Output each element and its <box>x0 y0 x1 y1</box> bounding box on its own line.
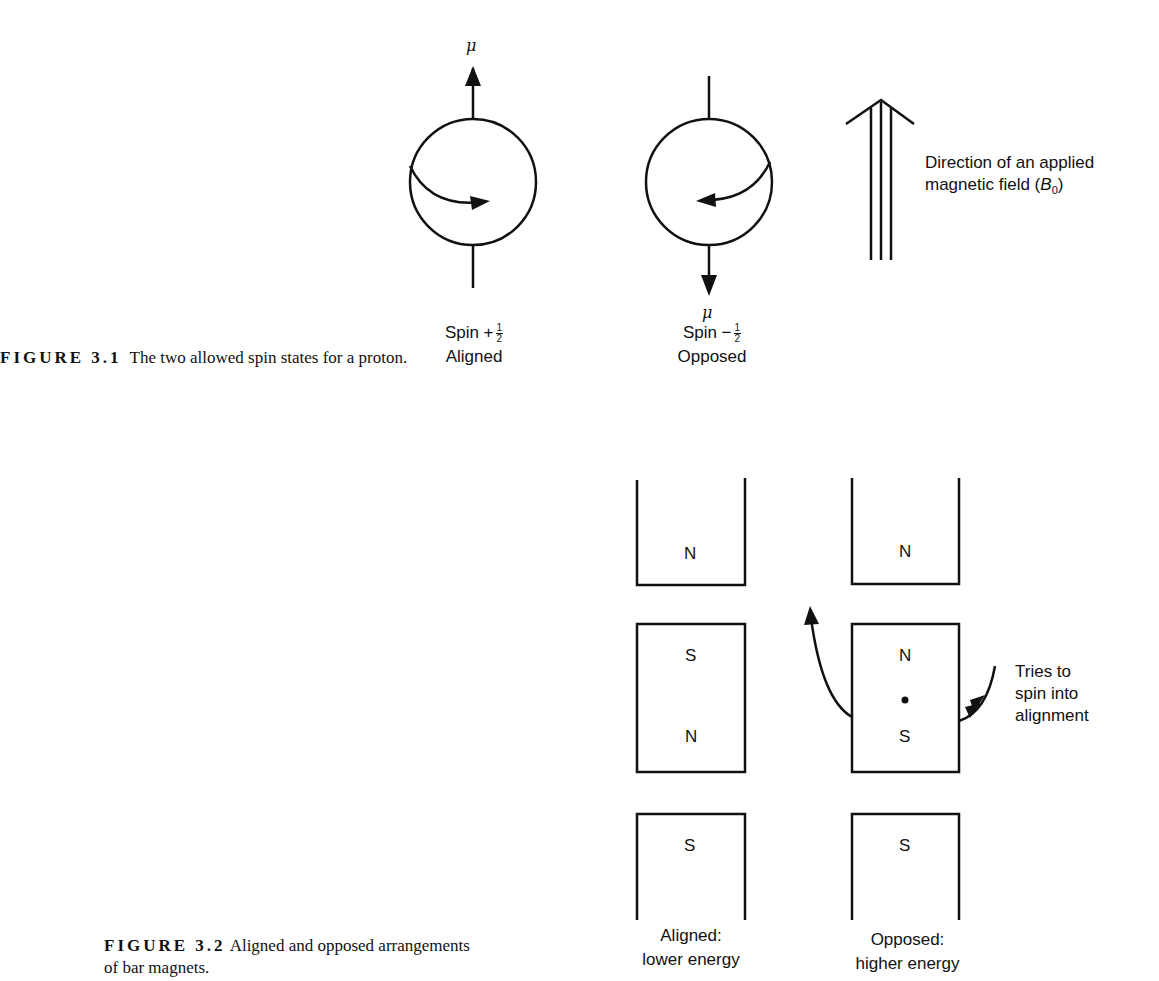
spin-value-opposed: Spin −12 <box>652 321 772 345</box>
diagram-canvas <box>0 0 1159 981</box>
figure-label: FIGURE 3.1 <box>0 348 122 367</box>
pole-aligned-top: N <box>684 544 696 564</box>
rotation-note: Tries to spin into alignment <box>1015 661 1155 727</box>
magnet-opposed-bottom <box>852 814 959 920</box>
aligned-energy-label: Aligned: lower energy <box>626 924 756 972</box>
spin-state-opposed: Spin −12 Opposed <box>652 321 772 369</box>
pole-aligned-middle-bottom: N <box>685 727 697 747</box>
proton-opposed-icon <box>646 76 772 296</box>
caption-text: The two allowed spin states for a proton… <box>130 348 408 367</box>
spin-label-aligned: Aligned <box>414 345 534 369</box>
spin-value-aligned: Spin +12 <box>414 321 534 345</box>
rotation-arrow-left-icon <box>804 606 852 717</box>
mu-label-opposed: μ <box>702 303 712 322</box>
mu-label-aligned: μ <box>466 36 476 55</box>
field-symbol: B <box>1040 175 1051 194</box>
rotation-arrow-right-icon <box>959 666 995 721</box>
spin-label-opposed: Opposed <box>652 345 772 369</box>
caption-text: Aligned and opposed arrangements <box>230 936 470 955</box>
pole-opposed-middle-top: N <box>899 646 911 666</box>
pivot-dot-icon <box>902 697 909 704</box>
pole-aligned-middle-top: S <box>685 646 696 666</box>
field-direction-label: Direction of an applied magnetic field (… <box>925 152 1155 201</box>
spin-state-aligned: Spin +12 Aligned <box>414 321 534 369</box>
magnetic-field-arrow-icon <box>846 100 914 260</box>
opposed-energy-label: Opposed: higher energy <box>840 928 975 976</box>
figure-label: FIGURE 3.2 <box>104 936 226 955</box>
pole-opposed-middle-bottom: S <box>899 727 910 747</box>
pole-opposed-top: N <box>899 542 911 562</box>
proton-aligned-icon <box>410 66 536 288</box>
fraction-half: 12 <box>734 323 742 344</box>
pole-aligned-bottom: S <box>684 836 695 856</box>
figure-3-1-caption: FIGURE 3.1 The two allowed spin states f… <box>0 347 410 369</box>
magnet-aligned-top <box>637 478 745 585</box>
figure-3-2-caption: FIGURE 3.2Aligned and opposed arrangemen… <box>104 935 624 979</box>
magnet-aligned-bottom <box>637 814 745 920</box>
fraction-half: 12 <box>496 323 504 344</box>
magnet-opposed-top <box>852 478 959 584</box>
pole-opposed-bottom: S <box>899 836 910 856</box>
